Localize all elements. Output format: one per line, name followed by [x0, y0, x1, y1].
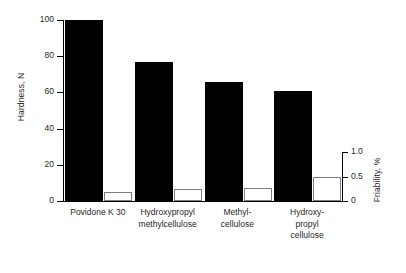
- bar-hardness: [274, 91, 312, 201]
- tick-mark: [57, 201, 63, 202]
- bar-hardness: [65, 20, 103, 201]
- bar-hardness: [205, 82, 243, 201]
- bar-friability: [104, 192, 132, 201]
- y-axis-left-title: Hardness, N: [16, 47, 26, 147]
- tick-label: 0: [49, 195, 54, 205]
- tick-mark: [342, 201, 348, 202]
- chart-figure: Hardness, N Friability, % 020406080100 0…: [0, 0, 406, 273]
- tick-label: 100: [40, 14, 54, 24]
- bar-friability: [174, 189, 202, 201]
- tick-label: 80: [45, 50, 54, 60]
- tick-label: 40: [45, 123, 54, 133]
- tick-label: 20: [45, 159, 54, 169]
- tick-label: 60: [45, 86, 54, 96]
- bar-friability: [313, 177, 341, 201]
- bar-friability: [244, 188, 272, 201]
- tick-mark: [342, 177, 348, 178]
- tick-mark: [342, 152, 348, 153]
- bar-hardness: [135, 62, 173, 201]
- plot-area: [63, 20, 335, 201]
- tick-label: 0.5: [351, 171, 363, 181]
- tick-label: 0: [351, 195, 356, 205]
- x-axis-tick-label: Hydroxy- propyl cellulose: [262, 207, 352, 242]
- tick-label: 1.0: [351, 146, 363, 156]
- y-axis-right-title: Friability, %: [372, 140, 382, 220]
- x-axis-line: [63, 201, 343, 202]
